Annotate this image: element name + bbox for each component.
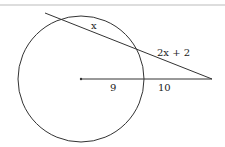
- label-10: 10: [158, 82, 171, 93]
- secant-line: [45, 13, 212, 79]
- geometry-diagram: x 2x + 2 9 10: [0, 0, 225, 147]
- label-2x-plus-2: 2x + 2: [157, 47, 190, 58]
- label-9: 9: [110, 82, 116, 93]
- label-x: x: [91, 20, 97, 31]
